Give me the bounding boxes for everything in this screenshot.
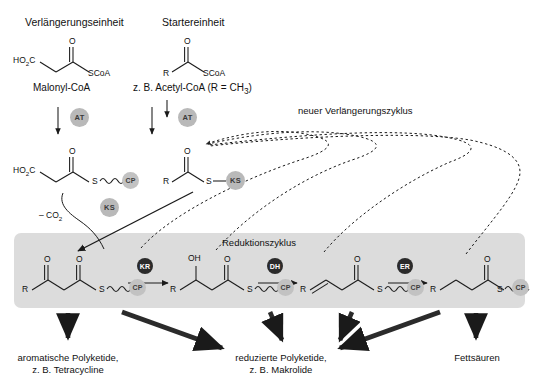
hydroxyacyl-oxygen: O	[224, 254, 231, 265]
betahydroxyacyl-cp-structure	[180, 265, 244, 290]
header-extender-unit: Verlängerungseinheit	[25, 16, 124, 29]
figure-canvas: Verlängerungseinheit Startereinheit HO2C…	[0, 0, 541, 391]
enzyme-dh[interactable]: DH	[267, 258, 283, 274]
cp-squiggle-2	[255, 287, 279, 292]
malonyl-scoa-label: SCoA	[88, 68, 110, 79]
product-reduced-polyketides: reduzierte Polyketide, z. B. Makrolide	[216, 352, 346, 376]
acetyl-name-part1: z. B. Acetyl-CoA (R = CH	[133, 82, 244, 93]
ketoacyl-oxygen-2: O	[76, 254, 83, 265]
recycle-dashed-loops	[141, 131, 520, 254]
condensation-arrow	[78, 192, 193, 251]
arrow-diagonal-to-reduced-left	[122, 312, 222, 348]
acetyl-r-label: R	[163, 68, 169, 79]
co2-loss-label: – CO2	[39, 210, 62, 222]
malonylcp-oxygen-label: O	[69, 146, 76, 157]
enoyl-sulfur: S	[377, 284, 383, 295]
enzyme-kr[interactable]: KR	[137, 258, 153, 274]
arrow-to-reduced-right	[340, 312, 352, 340]
cp-linker-squiggle	[100, 179, 124, 184]
acylks-oxygen-label: O	[184, 146, 191, 157]
enzyme-cp-malonyl[interactable]: CP	[122, 172, 139, 189]
cp-squiggle-3	[385, 287, 409, 292]
ketoacyl-oxygen-1: O	[44, 254, 51, 265]
enzyme-cp-1[interactable]: CP	[129, 279, 146, 296]
enzyme-cp-3[interactable]: CP	[407, 279, 424, 296]
acetyl-coa-name: z. B. Acetyl-CoA (R = CH3)	[133, 82, 252, 96]
enoyl-r-label: R	[300, 284, 306, 295]
header-starter-unit: Startereinheit	[162, 16, 224, 29]
product-arrows	[68, 312, 476, 348]
acyl-ks-structure	[172, 157, 226, 182]
enzyme-ks-condensation[interactable]: KS	[100, 198, 119, 217]
product-1-line1: reduzierte Polyketide,	[216, 352, 346, 364]
ketoacyl-sulfur: S	[99, 284, 105, 295]
acyl-cp-structure	[440, 265, 504, 290]
acylks-sulfur-label: S	[206, 176, 212, 187]
product-fatty-acids: Fettsäuren	[434, 352, 520, 364]
diagram-lines	[0, 0, 541, 391]
enzyme-er[interactable]: ER	[397, 258, 413, 274]
enzyme-at-right[interactable]: AT	[178, 108, 197, 127]
cp-squiggle-1	[107, 287, 131, 292]
enoyl-cp-structure	[310, 265, 374, 293]
new-elongation-cycle-label: neuer Verlängerungszyklus	[298, 105, 413, 117]
enzyme-cp-4[interactable]: CP	[512, 279, 529, 296]
reduction-cycle-label: Reduktionszyklus	[222, 237, 296, 249]
enzyme-at-left[interactable]: AT	[70, 108, 89, 127]
malonyl-coa-name: Malonyl-CoA	[33, 82, 90, 95]
enoyl-oxygen: O	[354, 254, 361, 265]
acetyl-oxygen-label: O	[184, 36, 191, 47]
malonyl-cp-structure	[40, 157, 89, 182]
malonyl-ho2c-label: HO2C	[13, 55, 35, 67]
malonyl-oxygen-label: O	[69, 36, 76, 47]
acetyl-coa-structure	[172, 47, 204, 72]
product-0-line1: aromatische Polyketide,	[8, 352, 128, 364]
arrow-diagonal-to-reduced-right	[340, 312, 440, 348]
ho2c-part2: C	[29, 55, 35, 65]
acetyl-scoa-label: SCoA	[203, 68, 225, 79]
malonyl-coa-structure	[40, 47, 89, 72]
acyl-r-label: R	[430, 284, 436, 295]
acylks-r-label: R	[163, 176, 169, 187]
ho2c-part1: HO	[13, 55, 26, 65]
ho2c2-part2: C	[29, 165, 35, 175]
product-2-line1: Fettsäuren	[434, 352, 520, 364]
malonylcp-ho2c-label: HO2C	[13, 165, 35, 177]
enzyme-ks-acyl[interactable]: KS	[226, 171, 245, 190]
co2-subscript: 2	[59, 215, 62, 222]
betaketoacyl-cp-structure	[32, 265, 96, 290]
arrow-to-reduced-mid	[270, 312, 282, 340]
hydroxyacyl-sulfur: S	[247, 284, 253, 295]
product-0-line2: z. B. Tetracycline	[8, 364, 128, 376]
product-aromatic-polyketides: aromatische Polyketide, z. B. Tetracycli…	[8, 352, 128, 376]
acyl-sulfur: S	[497, 284, 503, 295]
ho2c2-part1: HO	[13, 165, 26, 175]
malonylcp-sulfur-label: S	[92, 176, 98, 187]
hydroxyacyl-r-label: R	[170, 284, 176, 295]
hydroxyacyl-oh-label: OH	[188, 253, 201, 264]
co2-loss-text: – CO	[39, 210, 59, 220]
enzyme-cp-2[interactable]: CP	[277, 279, 294, 296]
acetyl-name-part2: )	[249, 82, 252, 93]
acyl-oxygen: O	[484, 254, 491, 265]
product-1-line2: z. B. Makrolide	[216, 364, 346, 376]
ketoacyl-r-label: R	[22, 284, 28, 295]
